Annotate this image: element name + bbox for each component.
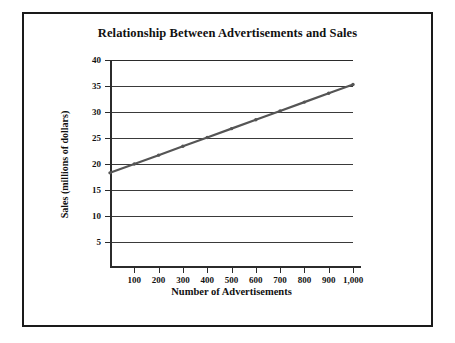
x-axis-title: Number of Advertisements: [110, 286, 353, 297]
x-tick-label-300: 300: [176, 275, 190, 285]
x-tick-800: [304, 268, 305, 273]
x-tick-label-800: 800: [298, 275, 312, 285]
data-point-900: [327, 92, 330, 95]
y-tick-label-30: 30: [92, 107, 101, 117]
y-tick-label-5: 5: [97, 237, 102, 247]
data-point-200: [157, 153, 160, 156]
chart-figure: Relationship Between Advertisements and …: [22, 12, 433, 327]
data-point-300: [181, 145, 184, 148]
plot-area: 510152025303540 100200300400500600700800…: [110, 60, 353, 268]
x-tick-500: [232, 268, 233, 273]
data-point-700: [278, 109, 281, 112]
sales-trend-line: [110, 60, 353, 268]
data-point-600: [254, 118, 257, 121]
data-point-0: [108, 171, 111, 174]
y-tick-label-40: 40: [92, 55, 101, 65]
x-tick-900: [329, 268, 330, 273]
data-point-500: [230, 127, 233, 130]
x-tick-100: [134, 268, 135, 273]
data-point-800: [303, 100, 306, 103]
data-point-400: [206, 136, 209, 139]
y-tick-label-10: 10: [92, 211, 101, 221]
x-tick-200: [159, 268, 160, 273]
x-tick-label-600: 600: [249, 275, 263, 285]
y-tick-label-15: 15: [92, 185, 101, 195]
x-tick-400: [207, 268, 208, 273]
x-tick-label-100: 100: [128, 275, 142, 285]
x-tick-300: [183, 268, 184, 273]
x-tick-700: [280, 268, 281, 273]
x-tick-600: [256, 268, 257, 273]
y-tick-label-35: 35: [92, 81, 101, 91]
x-tick-label-500: 500: [225, 275, 239, 285]
chart-title: Relationship Between Advertisements and …: [24, 26, 431, 41]
x-tick-label-900: 900: [322, 275, 336, 285]
y-tick-label-20: 20: [92, 159, 101, 169]
data-point-100: [133, 162, 136, 165]
x-tick-label-200: 200: [152, 275, 166, 285]
x-tick-label-400: 400: [200, 275, 214, 285]
y-axis-title: Sales (millions of dollars): [58, 60, 72, 268]
x-tick-1000: [353, 268, 354, 273]
x-tick-label-1000: 1,000: [343, 275, 363, 285]
y-axis-title-label: Sales (millions of dollars): [60, 110, 71, 218]
y-tick-label-25: 25: [92, 133, 101, 143]
x-tick-label-700: 700: [273, 275, 287, 285]
data-point-1000: [351, 83, 354, 86]
